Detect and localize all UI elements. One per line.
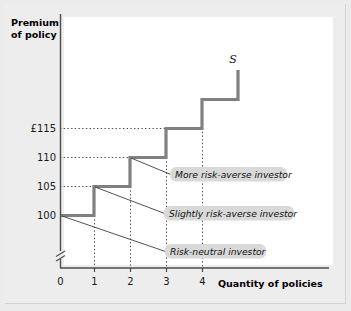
y-tick-label-110: 110 bbox=[37, 152, 56, 163]
x-tick-label-1: 1 bbox=[91, 276, 97, 287]
y-tick-label-115: £115 bbox=[31, 123, 56, 134]
supply-curve-s bbox=[60, 70, 238, 216]
annotation-risk-neutral: Risk-neutral investor bbox=[165, 244, 267, 259]
annotation-risk-neutral-text: Risk-neutral investor bbox=[170, 246, 267, 257]
axis-break-mark-upper bbox=[56, 251, 65, 257]
annotation-slightly-risk-averse: Slightly risk-averse investor bbox=[164, 206, 298, 221]
annotation-more-risk-averse: More risk-averse investor bbox=[170, 167, 293, 182]
step-curve-path bbox=[60, 70, 238, 216]
leader-line-more-risk-averse bbox=[131, 158, 172, 175]
leader-line-risk-neutral bbox=[62, 216, 167, 252]
y-tick-label-100: 100 bbox=[37, 210, 56, 221]
y-axis-tick-labels: £115 110 105 100 bbox=[31, 123, 56, 221]
annotation-leader-lines bbox=[62, 158, 172, 252]
annotation-slightly-risk-averse-text: Slightly risk-averse investor bbox=[169, 208, 298, 219]
chart-svg: S £115 110 105 100 0 1 2 bbox=[0, 0, 351, 311]
annotation-more-risk-averse-text: More risk-averse investor bbox=[175, 169, 293, 180]
x-tick-label-3: 3 bbox=[163, 276, 169, 287]
x-tick-label-4: 4 bbox=[199, 276, 205, 287]
x-axis-tick-labels: 0 1 2 3 4 bbox=[57, 276, 205, 287]
axes bbox=[56, 14, 329, 268]
figure-container: Premium of policy Quantity of policies S bbox=[0, 0, 351, 311]
x-tick-label-2: 2 bbox=[127, 276, 133, 287]
x-tick-label-0: 0 bbox=[57, 276, 63, 287]
curve-label-s: S bbox=[229, 53, 237, 66]
y-tick-label-105: 105 bbox=[37, 181, 56, 192]
